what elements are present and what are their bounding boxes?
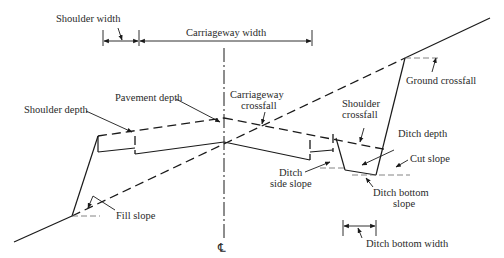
cut-slope-label: Cut slope <box>410 153 450 164</box>
carriageway-crossfall-label-1: Carriageway <box>230 89 284 100</box>
shoulder-depth-label: Shoulder depth <box>24 104 89 115</box>
ditch-bottom-width-label: Ditch bottom width <box>366 238 449 249</box>
centreline-symbol: ℄ <box>217 241 226 255</box>
ditch-bottom-slope-label-2: slope <box>393 198 416 209</box>
ground-crossfall-label: Ground crossfall <box>406 75 476 86</box>
carriageway-crossfall-label-2: crossfall <box>241 100 277 111</box>
fill-slope-label: Fill slope <box>116 210 156 221</box>
shoulder-crossfall-label-2: crossfall <box>342 109 378 120</box>
shoulder-crossfall-label-1: Shoulder <box>342 98 380 109</box>
centreline: ℄ <box>217 48 226 255</box>
ditch-bottom-slope-label-1: Ditch bottom <box>373 187 429 198</box>
ditch-side-slope-label-1: Ditch <box>279 167 303 178</box>
fill-embankment <box>72 118 388 216</box>
ditch-bottom-width-dimension <box>343 220 376 238</box>
pavement-depth-label: Pavement depth <box>115 92 183 103</box>
ditch-depth-label: Ditch depth <box>398 128 448 139</box>
road-cross-section-diagram: ℄ Shoulder width Carriageway width <box>0 0 504 258</box>
carriageway-width-label: Carriageway width <box>186 27 267 38</box>
shoulder-width-label: Shoulder width <box>56 13 121 24</box>
ditch-side-slope-label-2: side slope <box>270 178 312 189</box>
